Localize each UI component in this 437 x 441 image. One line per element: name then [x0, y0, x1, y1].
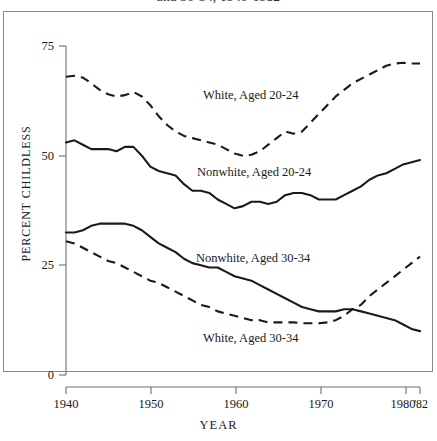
- x-tick-label-1960: 1960: [206, 397, 266, 412]
- series-label-nonwhite-20-24: Nonwhite, Aged 20-24: [197, 165, 311, 180]
- x-tick-label-1982: '82: [406, 397, 436, 412]
- figure-title-text: and 30-34, 1940-1982: [0, 0, 437, 5]
- y-tick-label-75: 75: [20, 39, 54, 54]
- series-label-nonwhite-30-34: Nonwhite, Aged 30-34: [196, 251, 310, 266]
- y-axis-title: PERCENT CHILDLESS: [19, 124, 34, 264]
- series-label-white-20-24: White, Aged 20-24: [203, 88, 298, 103]
- chart-frame: [3, 11, 433, 372]
- figure-root: and 30-34, 1940-1982: [0, 0, 437, 441]
- x-axis-title: YEAR: [0, 418, 437, 433]
- x-axis: [66, 387, 420, 394]
- x-tick-label-1940: 1940: [36, 397, 96, 412]
- figure-title-clipped: and 30-34, 1940-1982: [0, 0, 437, 11]
- x-tick-label-1970: 1970: [291, 397, 351, 412]
- series-label-white-30-34: White, Aged 30-34: [203, 331, 298, 346]
- y-tick-label-0: 0: [20, 368, 54, 383]
- x-tick-label-1950: 1950: [121, 397, 181, 412]
